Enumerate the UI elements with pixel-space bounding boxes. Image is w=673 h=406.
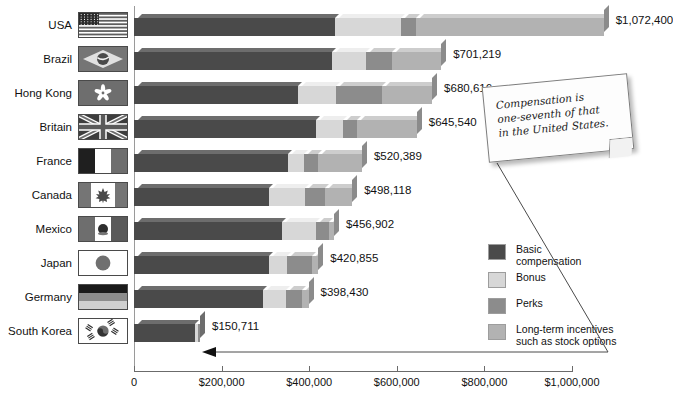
country-label: Germany — [0, 280, 72, 314]
bar-segment-perks — [366, 52, 392, 70]
bar-value-label: $456,902 — [346, 212, 394, 234]
x-axis-tick — [397, 366, 398, 372]
bar-end-cap — [441, 39, 446, 66]
callout-note: Compensation is one-seventh of that in t… — [485, 80, 631, 156]
flag-france — [78, 148, 128, 174]
bar-segment-basic-compensation — [134, 256, 269, 274]
bar-end-cap — [309, 277, 314, 304]
bar-segment-bonus — [316, 120, 343, 138]
bar-segment-basic-compensation — [134, 154, 288, 172]
bar-end-cap — [352, 175, 357, 202]
legend-label: Perks — [516, 297, 652, 310]
bar-segment-bonus — [282, 222, 316, 240]
bar-segment-perks — [287, 256, 312, 274]
chart-row: Mexico $456,902 — [0, 212, 652, 246]
bar-segment-long-term-incentives — [318, 154, 362, 172]
x-axis-tick — [484, 366, 485, 372]
bar-segment-perks — [336, 86, 382, 104]
bar-segment-basic-compensation — [134, 86, 298, 104]
bar-end-cap — [362, 141, 367, 168]
bar-value-label: $150,711 — [212, 314, 259, 336]
bar-value-label: $398,430 — [321, 280, 369, 302]
bar-segment-basic-compensation — [134, 52, 332, 70]
x-axis-tick — [309, 366, 310, 372]
legend-swatch-perks — [488, 298, 506, 314]
bar-segment-basic-compensation — [134, 324, 195, 342]
x-axis-tick-label: $800,000 — [461, 376, 507, 388]
bar-segment-long-term-incentives — [357, 120, 417, 138]
bar-segment-basic-compensation — [134, 188, 269, 206]
callout-note-curl — [609, 137, 633, 158]
flag-south-korea — [78, 318, 128, 344]
bar-segment-bonus — [269, 188, 305, 206]
bar-segment-long-term-incentives — [392, 52, 441, 70]
bar-segment-basic-compensation — [134, 290, 263, 308]
legend-item: Bonus — [488, 271, 652, 293]
callout-arrow-head — [202, 347, 216, 357]
bar-value-label: $645,540 — [429, 110, 477, 132]
country-label: Hong Kong — [0, 76, 72, 110]
bar-value-label: $1,072,400 — [616, 8, 673, 30]
bar-segment-basic-compensation — [134, 222, 282, 240]
bar-end-cap — [200, 311, 205, 338]
x-axis-tick — [134, 366, 135, 372]
x-axis-tick-label: 0 — [131, 376, 137, 388]
bar-segment-perks — [343, 120, 357, 138]
legend-label: Bonus — [516, 271, 652, 284]
bar-end-cap — [604, 5, 609, 32]
chart-row: Canada $498,118 — [0, 178, 652, 212]
flag-mexico — [78, 216, 128, 242]
bar-segment-bonus — [298, 86, 336, 104]
x-axis-tick — [572, 366, 573, 372]
bar-segment-bonus — [288, 154, 304, 172]
flag-usa — [78, 12, 128, 38]
chart-row: Brazil $701,219 — [0, 42, 652, 76]
bar-segment-bonus — [335, 18, 401, 36]
country-label: Brazil — [0, 42, 72, 76]
country-label: Britain — [0, 110, 72, 144]
x-axis-tick — [222, 366, 223, 372]
flag-hong-kong — [78, 80, 128, 106]
bar-segment-bonus — [269, 256, 287, 274]
bar-segment-perks — [401, 18, 416, 36]
country-label: Japan — [0, 246, 72, 280]
legend-swatch-long-term-incentives — [488, 324, 506, 340]
bar-segment-long-term-incentives — [325, 188, 352, 206]
bar-segment-long-term-incentives — [382, 86, 432, 104]
bar-value-label: $520,389 — [374, 144, 422, 166]
bar-segment-perks — [305, 188, 325, 206]
bar-segment-long-term-incentives — [302, 290, 309, 308]
bar-segment-basic-compensation — [134, 18, 335, 36]
chart-legend: Basic compensationBonusPerksLong-term in… — [488, 243, 652, 351]
legend-swatch-basic-compensation — [488, 244, 506, 260]
legend-item: Long-term incentives such as stock optio… — [488, 323, 652, 347]
chart-row: USA $1,072,400 — [0, 8, 652, 42]
bar-segment-perks — [316, 222, 329, 240]
flag-canada — [78, 182, 128, 208]
bar-segment-perks — [304, 154, 318, 172]
country-label: Canada — [0, 178, 72, 212]
flag-japan — [78, 250, 128, 276]
bar-value-label: $420,855 — [330, 246, 378, 268]
bar-segment-bonus — [263, 290, 286, 308]
bar-end-cap — [432, 73, 437, 100]
bar-segment-perks — [286, 290, 302, 308]
x-axis-line — [134, 371, 572, 372]
bar-end-cap — [318, 243, 323, 270]
legend-label: Basic compensation — [516, 243, 652, 267]
legend-swatch-bonus — [488, 272, 506, 288]
bar-segment-bonus — [332, 52, 366, 70]
country-label: South Korea — [0, 314, 72, 348]
country-label: Mexico — [0, 212, 72, 246]
x-axis-tick-label: $600,000 — [374, 376, 420, 388]
country-label: France — [0, 144, 72, 178]
x-axis-tick-label: $400,000 — [286, 376, 332, 388]
bar-end-cap — [417, 107, 422, 134]
legend-label: Long-term incentives such as stock optio… — [516, 323, 652, 347]
flag-germany — [78, 284, 128, 310]
bar-value-label: $701,219 — [453, 42, 501, 64]
country-label: USA — [0, 8, 72, 42]
x-axis-tick-label: $200,000 — [199, 376, 245, 388]
x-axis-tick-label: $1,000,000 — [544, 376, 599, 388]
